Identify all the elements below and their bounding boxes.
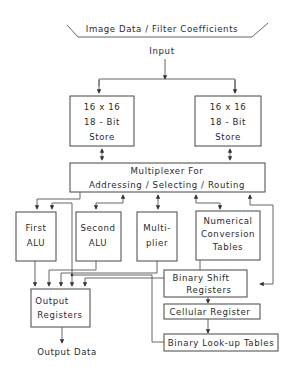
- svg-text:18 - Bit: 18 - Bit: [210, 117, 246, 127]
- svg-text:plier: plier: [146, 238, 168, 248]
- mux-second-alu-link: [96, 195, 123, 209]
- svg-text:Store: Store: [215, 132, 241, 142]
- svg-text:Binary Look-up Tables: Binary Look-up Tables: [168, 338, 275, 348]
- svg-text:Tables: Tables: [212, 242, 243, 252]
- svg-text:ALU: ALU: [27, 238, 45, 248]
- svg-text:First: First: [25, 223, 46, 233]
- binary-shift-registers-box: Binary Shift Registers: [164, 270, 247, 297]
- svg-text:Multi-: Multi-: [143, 223, 171, 233]
- svg-text:Second: Second: [80, 223, 115, 233]
- banner-text: Image Data / Filter Coefficients: [86, 24, 238, 34]
- output-data-label: Output Data: [37, 347, 97, 357]
- svg-text:Store: Store: [89, 132, 115, 142]
- multiplexer-box: Multiplexer For Addressing / Selecting /…: [70, 163, 265, 192]
- svg-text:ALU: ALU: [89, 238, 107, 248]
- svg-text:Registers: Registers: [186, 285, 231, 295]
- input-banner: Image Data / Filter Coefficients: [67, 23, 268, 37]
- numerical-conversion-box: Numerical Conversion Tables: [196, 211, 260, 260]
- mux-numerical-link: [196, 195, 220, 209]
- svg-text:Cellular Register: Cellular Register: [169, 307, 250, 317]
- second-alu-box: Second ALU: [76, 212, 121, 261]
- processor-block-diagram: Image Data / Filter Coefficients Input 1…: [0, 0, 290, 377]
- svg-text:Registers: Registers: [37, 310, 82, 320]
- multiplier-box: Multi- plier: [137, 212, 177, 261]
- svg-text:Conversion: Conversion: [201, 229, 255, 239]
- cellular-register-box: Cellular Register: [164, 304, 260, 319]
- svg-text:18 - Bit: 18 - Bit: [84, 117, 120, 127]
- svg-text:16 x 16: 16 x 16: [84, 102, 121, 112]
- svg-text:16 x 16: 16 x 16: [210, 102, 247, 112]
- svg-text:Binary Shift: Binary Shift: [172, 273, 229, 283]
- first-alu-box: First ALU: [16, 212, 56, 261]
- binary-lookup-tables-box: Binary Look-up Tables: [164, 334, 278, 351]
- output-registers-box: Output Registers: [31, 289, 90, 327]
- svg-text:Addressing / Selecting / Routi: Addressing / Selecting / Routing: [89, 180, 245, 190]
- svg-text:Numerical: Numerical: [203, 216, 252, 226]
- right-store-box: 16 x 16 18 - Bit Store: [195, 96, 261, 146]
- input-label: Input: [149, 46, 174, 56]
- svg-text:Multiplexer For: Multiplexer For: [131, 166, 204, 176]
- input-wires: [99, 59, 235, 93]
- svg-text:Output: Output: [35, 296, 68, 306]
- left-store-box: 16 x 16 18 - Bit Store: [70, 96, 134, 146]
